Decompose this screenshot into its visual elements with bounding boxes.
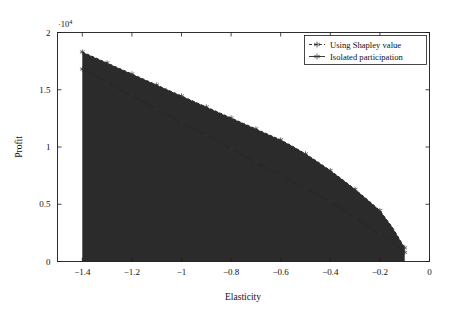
chart-legend[interactable]: Using Shapley value Isolated participati… xyxy=(305,36,427,65)
y-tick-label: 1 xyxy=(46,142,51,152)
x-axis-title: Elasticity xyxy=(225,292,261,302)
x-axis-tick-labels: −1.4−1.2−1−0.8−0.6−0.4−0.20 xyxy=(74,267,432,277)
x-tick-label: −0.8 xyxy=(223,267,240,277)
y-tick-label: 0.5 xyxy=(39,199,51,209)
y-axis-title: Profit xyxy=(14,136,24,158)
x-tick-label: −1.4 xyxy=(74,267,91,277)
y-tick-label: 1.5 xyxy=(39,85,51,95)
x-tick-label: −0.2 xyxy=(372,267,388,277)
x-tick-label: −0.6 xyxy=(273,267,290,277)
x-tick-label: −1 xyxy=(177,267,187,277)
profit-vs-elasticity-chart: −1.4−1.2−1−0.8−0.6−0.4−0.20 00.511.52 ·1… xyxy=(0,0,453,321)
y-axis-exponent-label: ·104 xyxy=(58,18,72,29)
x-tick-label: −0.4 xyxy=(322,267,339,277)
chart-figure: −1.4−1.2−1−0.8−0.6−0.4−0.20 00.511.52 ·1… xyxy=(0,0,453,321)
x-tick-label: −1.2 xyxy=(124,267,140,277)
y-axis-tick-labels: 00.511.52 xyxy=(39,28,51,267)
filled-area-region xyxy=(82,52,404,262)
legend-label-using-shapley-value: Using Shapley value xyxy=(330,40,401,50)
x-tick-label: 0 xyxy=(427,267,432,277)
legend-label-isolated-participation: Isolated participation xyxy=(330,52,403,62)
y-tick-label: 0 xyxy=(46,257,51,267)
y-tick-label: 2 xyxy=(46,28,51,38)
